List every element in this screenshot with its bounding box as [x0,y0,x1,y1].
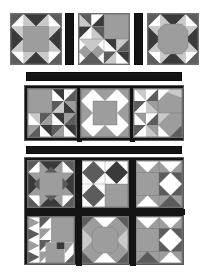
block-sawtooth-star[interactable] [10,13,62,65]
block-sawtooth-star-2[interactable] [80,88,130,138]
block-kaleidoscope[interactable] [135,160,183,208]
vertical-sash-2 [134,13,143,65]
block-snowball-star-2[interactable] [81,216,129,264]
block-broken-dishes[interactable] [27,88,77,138]
flying-geese-art [134,89,182,137]
broken-dishes-art [28,89,76,137]
middle-row-section [24,85,184,141]
block-diamond-square[interactable] [27,160,75,208]
kaleidoscope-art [136,161,182,207]
divider-bar-2 [26,146,182,154]
block-double-pinwheel[interactable] [135,216,183,264]
block-snowball-star[interactable] [147,13,199,65]
block-pinwheel-corner[interactable] [78,13,130,65]
hourglass-corner-art [82,161,128,207]
double-pinwheel-art [136,217,182,263]
vertical-sash-1 [65,13,74,65]
snowball-star-art [148,14,198,64]
pinwheel-corner-art [79,14,129,64]
top-row-section [10,13,200,67]
bottom-grid-section [24,157,184,265]
diamond-square-art [28,161,74,207]
block-hourglass-corner[interactable] [81,160,129,208]
bottom-horizontal-sash-1 [25,209,185,215]
block-flying-geese[interactable] [133,88,183,138]
sawtooth-star-art [11,14,61,64]
divider-bar-1 [26,72,182,81]
sawtooth-star-art-2 [81,89,129,137]
snowball-star-art-2 [82,217,128,263]
zigzag-art [28,217,74,263]
block-zigzag[interactable] [27,216,75,264]
quilt-layout-canvas [0,0,208,277]
